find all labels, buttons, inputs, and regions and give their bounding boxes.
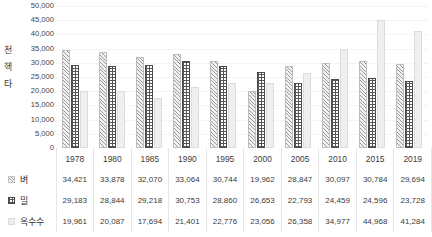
table-cell: 23,728 bbox=[394, 190, 432, 211]
bar[interactable] bbox=[359, 61, 367, 148]
bar-group bbox=[56, 6, 93, 148]
legend-swatch-icon bbox=[8, 176, 15, 183]
table-cell: 41,284 bbox=[394, 211, 432, 232]
bar[interactable] bbox=[303, 73, 311, 148]
table-cell: 32,070 bbox=[131, 169, 169, 190]
table-cell: 33,878 bbox=[94, 169, 132, 190]
table-corner-cell bbox=[0, 148, 56, 169]
legend-row-label: 옥수수 bbox=[0, 211, 56, 232]
legend-row-label: 벼 bbox=[0, 169, 56, 190]
bar[interactable] bbox=[136, 57, 144, 148]
table-cell: 26,358 bbox=[281, 211, 319, 232]
table-cell: 17,694 bbox=[131, 211, 169, 232]
bar[interactable] bbox=[108, 66, 116, 148]
bar[interactable] bbox=[294, 83, 302, 148]
bar[interactable] bbox=[71, 65, 79, 148]
table-cell: 29,183 bbox=[56, 190, 94, 211]
table-column-header: 1990 bbox=[169, 148, 207, 169]
bar-group bbox=[316, 6, 353, 148]
table-cell: 28,844 bbox=[94, 190, 132, 211]
bar[interactable] bbox=[368, 78, 376, 148]
table-cell: 30,744 bbox=[206, 169, 244, 190]
legend-series-name: 벼 bbox=[20, 173, 28, 186]
bar-groups bbox=[56, 6, 428, 148]
table-body: 벼34,42133,87832,07033,06430,74419,96228,… bbox=[0, 169, 432, 232]
table-column-header: 2019 bbox=[394, 148, 432, 169]
bar[interactable] bbox=[396, 64, 404, 148]
y-axis-tick-labels: 50,00045,00040,00035,00030,00025,00020,0… bbox=[14, 0, 54, 152]
y-tick-label: 50,000 bbox=[14, 2, 54, 10]
chart-page: 천 헥 타 50,00045,00040,00035,00030,00025,0… bbox=[0, 0, 432, 237]
y-tick-label: 40,000 bbox=[14, 30, 54, 38]
bar[interactable] bbox=[405, 81, 413, 148]
table-column-header: 1978 bbox=[56, 148, 94, 169]
bar[interactable] bbox=[80, 91, 88, 148]
y-tick-label: 35,000 bbox=[14, 45, 54, 53]
y-tick-label: 20,000 bbox=[14, 87, 54, 95]
bar[interactable] bbox=[331, 79, 339, 148]
bar[interactable] bbox=[154, 98, 162, 148]
bar-group bbox=[205, 6, 242, 148]
table-cell: 30,784 bbox=[356, 169, 394, 190]
bar[interactable] bbox=[340, 49, 348, 148]
bar[interactable] bbox=[173, 54, 181, 148]
bar[interactable] bbox=[414, 31, 422, 148]
table-cell: 28,860 bbox=[206, 190, 244, 211]
bar-group bbox=[354, 6, 391, 148]
y-tick-label: 25,000 bbox=[14, 73, 54, 81]
legend-series-name: 옥수수 bbox=[20, 215, 44, 228]
table-row: 밀29,18328,84429,21830,75328,86026,65322,… bbox=[0, 190, 432, 211]
table-row: 벼34,42133,87832,07033,06430,74419,96228,… bbox=[0, 169, 432, 190]
bar[interactable] bbox=[266, 83, 274, 148]
bar[interactable] bbox=[377, 20, 385, 148]
bar-chart: 천 헥 타 50,00045,00040,00035,00030,00025,0… bbox=[0, 0, 432, 158]
table-cell: 29,694 bbox=[394, 169, 432, 190]
bar-group bbox=[279, 6, 316, 148]
y-tick-label: 30,000 bbox=[14, 59, 54, 67]
table-cell: 30,753 bbox=[169, 190, 207, 211]
table-cell: 33,064 bbox=[169, 169, 207, 190]
bar[interactable] bbox=[228, 83, 236, 148]
table-cell: 21,401 bbox=[169, 211, 207, 232]
table-column-header: 1980 bbox=[94, 148, 132, 169]
y-tick-label: 45,000 bbox=[14, 16, 54, 24]
legend-row-label: 밀 bbox=[0, 190, 56, 211]
y-axis-title-char-2: 헥 bbox=[1, 59, 14, 76]
table-column-header: 2010 bbox=[319, 148, 357, 169]
table-column-header: 1995 bbox=[206, 148, 244, 169]
bar-group bbox=[242, 6, 279, 148]
plot-area bbox=[56, 6, 428, 148]
table-cell: 22,776 bbox=[206, 211, 244, 232]
y-axis-title-char-3: 타 bbox=[1, 76, 14, 93]
bar[interactable] bbox=[248, 91, 256, 148]
table-column-header: 2000 bbox=[244, 148, 282, 169]
bar-group bbox=[130, 6, 167, 148]
bar[interactable] bbox=[62, 50, 70, 148]
table-cell: 29,218 bbox=[131, 190, 169, 211]
table-column-header: 2005 bbox=[281, 148, 319, 169]
bar[interactable] bbox=[322, 63, 330, 148]
y-tick-label: 5,000 bbox=[14, 130, 54, 138]
table-cell: 19,962 bbox=[244, 169, 282, 190]
y-tick-label: 10,000 bbox=[14, 116, 54, 124]
table-cell: 24,596 bbox=[356, 190, 394, 211]
bar[interactable] bbox=[285, 66, 293, 148]
bar[interactable] bbox=[191, 87, 199, 148]
table-column-header: 1985 bbox=[131, 148, 169, 169]
table-cell: 34,421 bbox=[56, 169, 94, 190]
bar[interactable] bbox=[219, 66, 227, 148]
bar[interactable] bbox=[99, 52, 107, 148]
table-cell: 26,653 bbox=[244, 190, 282, 211]
bar[interactable] bbox=[210, 61, 218, 148]
table-cell: 44,968 bbox=[356, 211, 394, 232]
table-cell: 28,847 bbox=[281, 169, 319, 190]
bar[interactable] bbox=[145, 65, 153, 148]
bar[interactable] bbox=[257, 72, 265, 148]
table-cell: 20,087 bbox=[94, 211, 132, 232]
legend-swatch-icon bbox=[8, 197, 15, 204]
bar-group bbox=[168, 6, 205, 148]
table-header-row: 1978198019851990199520002005201020152019 bbox=[0, 148, 432, 169]
bar[interactable] bbox=[117, 91, 125, 148]
bar[interactable] bbox=[182, 61, 190, 148]
y-tick-label: 15,000 bbox=[14, 101, 54, 109]
